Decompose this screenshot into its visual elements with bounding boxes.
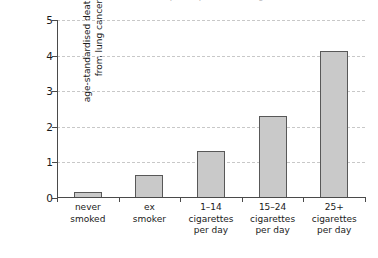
bar-chart-figure: smoked a clear dose-response pattern of … [0,0,378,258]
x-axis-category-label-line: smoked [57,214,119,226]
x-axis-category-label: 15–24cigarettesper day [242,202,304,237]
x-axis-category-label-line: smoker [119,214,181,226]
y-axis-tick-label: 4 [46,50,53,62]
x-axis-line [57,197,365,198]
x-axis-category-label-line: per day [303,225,365,237]
gridline [57,91,365,92]
x-axis-category-label-line: 15–24 [242,202,304,214]
x-axis-category-label-line: cigarettes [180,214,242,226]
y-axis-line [57,20,58,198]
bar [197,151,225,198]
plot-area: 012345 [57,20,365,198]
clipped-caption-text: smoked a clear dose-response pattern of … [0,0,378,3]
y-axis-tick-label: 1 [46,156,53,168]
x-axis-category-label-line: ex [119,202,181,214]
y-axis-tick-label: 2 [46,121,53,133]
x-axis-category-label: neversmoked [57,202,119,225]
x-axis-category-label-line: per day [242,225,304,237]
x-axis-tick-mark [365,197,366,202]
x-axis-category-label: exsmoker [119,202,181,225]
x-axis-category-label-line: 1–14 [180,202,242,214]
gridline [57,56,365,57]
y-axis-tick-label: 3 [46,85,53,97]
bar [320,51,348,198]
x-axis-category-label-line: never [57,202,119,214]
x-axis-labels-group: neversmokedexsmoker1–14cigarettesper day… [57,202,365,256]
y-axis-title: age-standardised death rate from lung ca… [2,0,36,54]
x-axis-category-label-line: cigarettes [303,214,365,226]
y-axis-tick-label: 0 [46,192,53,204]
y-axis-tick-label: 5 [46,14,53,26]
x-axis-category-label-line: 25+ [303,202,365,214]
x-axis-category-label: 25+cigarettesper day [303,202,365,237]
gridline [57,127,365,128]
x-axis-category-label-line: per day [180,225,242,237]
bar [135,175,163,198]
x-axis-category-label-line: cigarettes [242,214,304,226]
gridline [57,20,365,21]
x-axis-category-label: 1–14cigarettesper day [180,202,242,237]
bar [259,116,287,198]
